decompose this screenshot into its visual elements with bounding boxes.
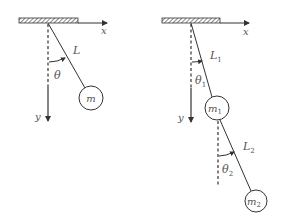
y-axis-label: y [34, 111, 41, 122]
length-label: L [72, 44, 80, 57]
length-2-label: L2 [242, 140, 255, 155]
pendulum-diagram: x y L θ m x y L1 θ1 m1 L2 θ2 m2 [0, 0, 283, 217]
y-axis-label: y [177, 112, 184, 123]
mass-label: m [86, 93, 95, 104]
angle-2-label: θ2 [222, 163, 233, 178]
ceiling-support [19, 18, 78, 23]
length-1-label: L1 [209, 49, 222, 64]
angle-arc-arrow [49, 58, 65, 62]
x-axis-label: x [101, 25, 107, 36]
double-pendulum: x y L1 θ1 m1 L2 θ2 m2 [162, 18, 267, 212]
single-pendulum: x y L θ m [19, 18, 107, 122]
x-axis-label: x [243, 26, 249, 37]
angle-label: θ [54, 69, 61, 82]
angle-1-arc-arrow [192, 61, 202, 62]
angle-1-label: θ1 [195, 74, 206, 89]
angle-2-arc-arrow [219, 152, 234, 156]
ceiling-support [162, 18, 220, 23]
